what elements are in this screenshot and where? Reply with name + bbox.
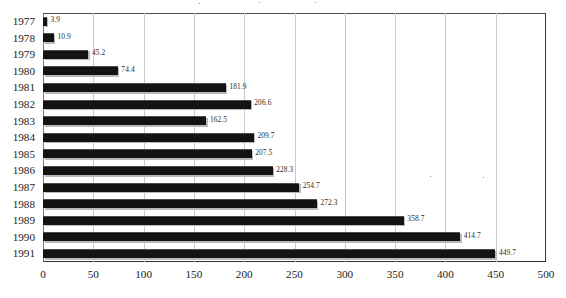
scan-speck bbox=[430, 176, 431, 177]
y-axis-tick-label: 1986 bbox=[13, 162, 35, 179]
bar-row: 207.5 bbox=[43, 146, 546, 163]
bar-value-label: 209.7 bbox=[257, 131, 274, 141]
bar-value-label: 74.4 bbox=[121, 65, 134, 75]
bar[interactable] bbox=[43, 116, 206, 125]
bar-row: 414.7 bbox=[43, 229, 546, 246]
bar[interactable] bbox=[43, 149, 252, 158]
y-axis-tick-label: 1980 bbox=[13, 63, 35, 80]
bar-value-label: 207.5 bbox=[255, 148, 272, 158]
y-axis-tick-label: 1982 bbox=[13, 96, 35, 113]
bar-row: 228.3 bbox=[43, 162, 546, 179]
x-axis-tick-label: 250 bbox=[286, 266, 303, 282]
bar[interactable] bbox=[43, 249, 495, 258]
x-axis-labels: 050100150200250300350400450500 bbox=[43, 266, 546, 286]
bar[interactable] bbox=[43, 83, 226, 92]
x-axis-tick-label: 400 bbox=[437, 266, 454, 282]
bar-row: 254.7 bbox=[43, 179, 546, 196]
x-axis-tick-label: 350 bbox=[387, 266, 404, 282]
bar-row: 10.9 bbox=[43, 30, 546, 47]
bar-value-label: 162.5 bbox=[210, 115, 227, 125]
x-axis-tick-label: 100 bbox=[135, 266, 152, 282]
bars-container: 3.910.945.274.4181.9206.6162.5209.7207.5… bbox=[43, 13, 546, 262]
scan-speck bbox=[483, 177, 484, 178]
x-axis-tick-label: 150 bbox=[186, 266, 203, 282]
bar-row: 74.4 bbox=[43, 63, 546, 80]
bar-value-label: 181.9 bbox=[229, 82, 246, 92]
x-axis-tick-label: 50 bbox=[88, 266, 99, 282]
x-axis-tick-label: 500 bbox=[538, 266, 555, 282]
scan-speck bbox=[259, 2, 260, 3]
bar-value-label: 358.7 bbox=[407, 214, 424, 224]
bar-row: 45.2 bbox=[43, 46, 546, 63]
bar-value-label: 206.6 bbox=[254, 98, 271, 108]
y-axis-labels: 1977197819791980198119821983198419851986… bbox=[0, 13, 40, 262]
bar-row: 272.3 bbox=[43, 196, 546, 213]
bar[interactable] bbox=[43, 166, 273, 175]
bar-value-label: 45.2 bbox=[92, 48, 105, 58]
bar-chart: 3.910.945.274.4181.9206.6162.5209.7207.5… bbox=[0, 0, 566, 298]
scan-speck bbox=[199, 3, 200, 4]
bar-value-label: 3.9 bbox=[50, 15, 60, 25]
y-axis-tick-label: 1979 bbox=[13, 46, 35, 63]
bar[interactable] bbox=[43, 232, 460, 241]
bar-row: 209.7 bbox=[43, 129, 546, 146]
bar[interactable] bbox=[43, 199, 317, 208]
bar-value-label: 10.9 bbox=[57, 32, 70, 42]
bar[interactable] bbox=[43, 17, 47, 26]
y-axis-tick-label: 1981 bbox=[13, 79, 35, 96]
y-axis-tick-label: 1991 bbox=[13, 245, 35, 262]
bar[interactable] bbox=[43, 50, 88, 59]
x-axis-tick-label: 200 bbox=[236, 266, 253, 282]
bar[interactable] bbox=[43, 183, 299, 192]
y-axis-tick-label: 1989 bbox=[13, 212, 35, 229]
y-axis-tick-label: 1987 bbox=[13, 179, 35, 196]
bar-value-label: 272.3 bbox=[320, 198, 337, 208]
y-axis-tick-label: 1985 bbox=[13, 146, 35, 163]
y-axis-tick-label: 1990 bbox=[13, 229, 35, 246]
bar-row: 162.5 bbox=[43, 113, 546, 130]
y-axis-tick-label: 1977 bbox=[13, 13, 35, 30]
bar[interactable] bbox=[43, 100, 251, 109]
x-axis-tick-label: 300 bbox=[336, 266, 353, 282]
scan-speck bbox=[315, 2, 316, 3]
y-axis-tick-label: 1988 bbox=[13, 196, 35, 213]
x-axis-tick-label: 450 bbox=[487, 266, 504, 282]
bar-row: 181.9 bbox=[43, 79, 546, 96]
y-axis-tick-label: 1978 bbox=[13, 30, 35, 47]
bar-row: 358.7 bbox=[43, 212, 546, 229]
bar-value-label: 414.7 bbox=[464, 231, 481, 241]
y-axis-tick-label: 1983 bbox=[13, 113, 35, 130]
bar-value-label: 254.7 bbox=[303, 181, 320, 191]
cropped-title-strip bbox=[0, 0, 566, 12]
bar[interactable] bbox=[43, 133, 254, 142]
bar-value-label: 228.3 bbox=[276, 165, 293, 175]
bar[interactable] bbox=[43, 66, 118, 75]
bar-row: 3.9 bbox=[43, 13, 546, 30]
y-axis-tick-label: 1984 bbox=[13, 129, 35, 146]
bar-row: 206.6 bbox=[43, 96, 546, 113]
x-axis-tick-label: 0 bbox=[40, 266, 46, 282]
bar[interactable] bbox=[43, 33, 54, 42]
bar[interactable] bbox=[43, 216, 404, 225]
bar-value-label: 449.7 bbox=[499, 248, 516, 258]
bar-row: 449.7 bbox=[43, 245, 546, 262]
